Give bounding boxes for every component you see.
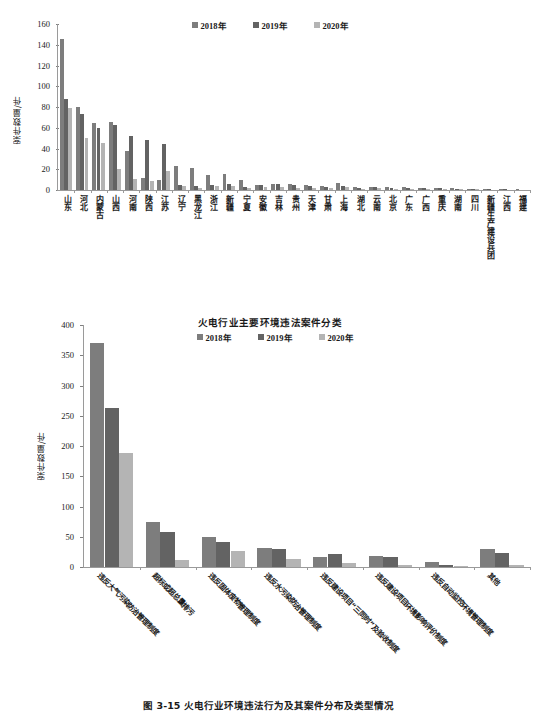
bar (361, 189, 365, 190)
bar (150, 181, 154, 190)
x-tick-mark (474, 567, 475, 570)
x-tick-mark (196, 567, 197, 570)
bar (119, 453, 133, 567)
x-axis-label: 甘肃 (323, 195, 331, 211)
bar (182, 186, 186, 190)
chart-provinces: 2018年 2019年 2020年 案件数量/件 020406080100120… (0, 0, 537, 300)
x-axis-label: 超标或超总量排污 (151, 572, 196, 617)
bar-group (239, 24, 252, 190)
x-tick-mark (139, 190, 140, 193)
x-axis-label: 广东 (404, 195, 412, 211)
x-tick-mark (419, 567, 420, 570)
y-tick-label: 0 (48, 562, 74, 572)
x-tick-mark (107, 190, 108, 193)
bar (286, 559, 300, 567)
x-axis-label: 广西 (420, 195, 428, 211)
y-tick-label: 300 (48, 381, 74, 391)
bar (383, 557, 397, 567)
x-axis-label: 四川 (469, 195, 477, 211)
x-axis-label: 北京 (388, 195, 396, 211)
bar-group (483, 24, 496, 190)
x-tick-mark (465, 190, 466, 193)
bar-group (369, 325, 412, 567)
bar (345, 187, 349, 190)
bar (68, 108, 72, 190)
bar-group (480, 325, 523, 567)
bar (231, 186, 235, 190)
x-axis-label: 辽宁 (176, 195, 184, 211)
x-axis-label: 安徽 (257, 195, 265, 211)
bar (454, 566, 468, 567)
x-tick-mark (530, 567, 531, 570)
x-tick-mark (188, 190, 189, 193)
x-tick-mark (204, 190, 205, 193)
x-axis-label: 河北 (78, 195, 86, 211)
x-tick-mark (253, 190, 254, 193)
y-tick-label: 50 (48, 532, 74, 542)
bar (342, 563, 356, 567)
y-tick-label: 120 (24, 61, 50, 71)
bar (443, 189, 447, 190)
bar (377, 188, 381, 190)
bar-group (90, 325, 133, 567)
x-axis-label: 新疆 (225, 195, 233, 211)
bar (426, 189, 430, 190)
bar-group (450, 24, 463, 190)
x-tick-mark (400, 190, 401, 193)
x-axis-label: 上海 (339, 195, 347, 211)
y-tick-label: 0 (24, 185, 50, 195)
bar (215, 186, 219, 190)
x-axis-label: 湖北 (355, 195, 363, 211)
y-tick-label: 40 (24, 144, 50, 154)
chart1-y-axis-ticks: 020406080100120140160 (22, 24, 50, 190)
bar-group (157, 24, 170, 190)
chart1-plot-area (58, 24, 530, 190)
bar (198, 188, 202, 190)
bar (216, 542, 230, 567)
bar-group (402, 24, 415, 190)
x-tick-mark (363, 567, 364, 570)
bar-group (516, 24, 529, 190)
y-tick-label: 140 (24, 40, 50, 50)
x-tick-mark (384, 190, 385, 193)
bar (487, 189, 491, 190)
x-axis-label: 山东 (62, 195, 70, 211)
bar (369, 556, 383, 567)
bar (296, 188, 300, 190)
x-tick-mark (449, 190, 450, 193)
bar-group (320, 24, 333, 190)
bar-group (76, 24, 89, 190)
bar (101, 143, 105, 190)
bar (146, 522, 160, 567)
x-tick-mark (237, 190, 238, 193)
bar (90, 343, 104, 567)
x-tick-mark (156, 190, 157, 193)
bar (328, 554, 342, 567)
x-tick-mark (514, 190, 515, 193)
bar-group (313, 325, 356, 567)
x-tick-mark (251, 567, 252, 570)
bar-group (109, 24, 122, 190)
chart2-x-axis-labels: 违反大气污染防治管理制度超标或超总量排污违反固体废物管理制度违反水污染防治管理制… (84, 572, 530, 682)
x-axis-label: 违反大气污染防治管理制度 (95, 572, 160, 637)
x-tick-mark (221, 190, 222, 193)
bar-group (304, 24, 317, 190)
x-tick-mark (416, 190, 417, 193)
bar (495, 553, 509, 567)
bar-group (190, 24, 203, 190)
x-tick-mark (74, 190, 75, 193)
x-axis-label: 浙江 (209, 195, 217, 211)
x-tick-mark (172, 190, 173, 193)
y-tick-label: 80 (24, 102, 50, 112)
x-axis-label: 山西 (111, 195, 119, 211)
x-axis-label: 河南 (127, 195, 135, 211)
bar (313, 557, 327, 567)
chart1-x-axis-line (57, 190, 530, 191)
x-axis-label: 云南 (371, 195, 379, 211)
x-axis-label: 吉林 (274, 195, 282, 211)
bar (459, 189, 463, 190)
y-tick-label: 100 (24, 81, 50, 91)
bar (329, 188, 333, 190)
bar (202, 537, 216, 567)
bar-group (257, 325, 300, 567)
